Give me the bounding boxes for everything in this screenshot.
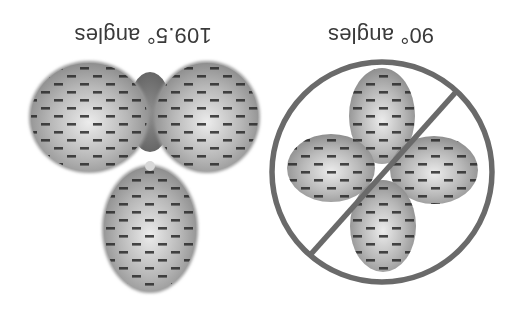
lobe-top-right xyxy=(154,61,260,173)
orbital-diagram: 109.5° angles 90° angles xyxy=(0,0,516,315)
tetrahedral-group xyxy=(29,61,260,293)
lobe-bottom xyxy=(102,165,198,293)
nucleus xyxy=(145,161,155,171)
lobe-top-left xyxy=(29,61,149,173)
label-90-angles: 90° angles xyxy=(316,22,446,48)
square-planar-group xyxy=(272,62,492,282)
lobe-bottom xyxy=(350,180,416,272)
label-109-5-angles: 109.5° angles xyxy=(61,22,225,48)
